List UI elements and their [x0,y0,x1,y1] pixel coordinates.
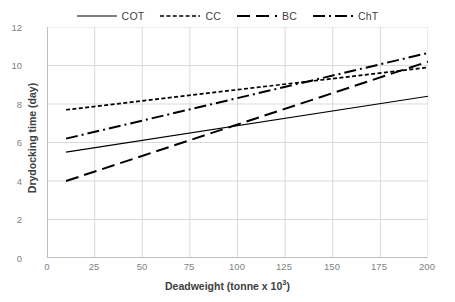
legend-item-cht[interactable]: ChT [313,11,378,22]
y-tick-label-8: 8 [0,99,22,110]
x-tick-label-125: 125 [264,261,304,272]
y-tick-label-2: 2 [0,214,22,225]
y-tick-label-10: 10 [0,60,22,71]
legend-item-cot[interactable]: COT [77,11,145,22]
x-tick-label-100: 100 [217,261,257,272]
x-tick-label-75: 75 [169,261,209,272]
y-tick-label-6: 6 [0,137,22,148]
x-tick-label-175: 175 [359,261,399,272]
plot-area [47,27,428,258]
x-axis-title-end: ) [286,280,290,292]
legend-label-bc: BC [282,11,297,22]
x-tick-label-50: 50 [122,261,162,272]
gridlines [47,27,428,258]
plot-svg [47,27,428,258]
x-tick-label-25: 25 [74,261,114,272]
legend-swatch-dashdot-icon [313,11,353,21]
series-line-cot [66,96,428,152]
series-line-bc [66,62,428,181]
legend-label-cot: COT [122,11,145,22]
legend-swatch-solid-icon [77,11,117,21]
y-tick-label-12: 12 [0,22,22,33]
legend-item-cc[interactable]: CC [160,11,221,22]
legend-swatch-dashed-icon [237,11,277,21]
y-tick-label-0: 0 [0,253,22,264]
x-tick-label-150: 150 [312,261,352,272]
chart-container: COT CC BC ChT Drydocking time (day) 12 1… [0,0,455,302]
x-tick-label-0: 0 [27,261,67,272]
y-tick-label-4: 4 [0,176,22,187]
series-lines [66,53,428,181]
y-axis-title: Drydocking time (day) [26,53,38,223]
legend-swatch-dotted-icon [160,11,200,21]
legend-label-cht: ChT [358,11,378,22]
chart-legend: COT CC BC ChT [0,6,455,26]
legend-item-bc[interactable]: BC [237,11,297,22]
series-line-cc [66,67,428,109]
x-tick-label-200: 200 [407,261,447,272]
x-axis-title-main: Deadweight (tonne x 10 [165,280,282,292]
x-axis-title: Deadweight (tonne x 103) [0,278,455,292]
legend-label-cc: CC [205,11,221,22]
